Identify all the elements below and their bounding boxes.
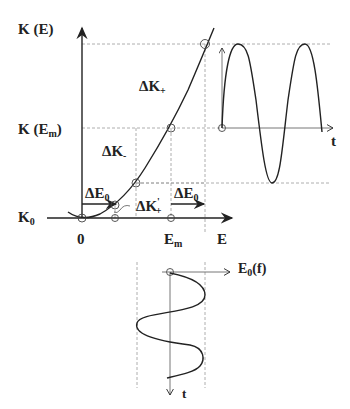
k0-label: K0 [18, 210, 35, 227]
e-axis-label: E [217, 232, 227, 247]
t-bottom-label: t [182, 387, 186, 400]
e0-of-t-wave [137, 273, 205, 378]
t-right-label: t [331, 134, 336, 149]
delta-e0-right-label: ΔE0 [174, 186, 198, 203]
k-of-em-label: K (Em) [18, 122, 62, 139]
delta-k-plus-label: ΔK+ [139, 79, 166, 96]
delta-k-plus-prime-label: ΔK'+ [136, 197, 162, 216]
origin-label: 0 [77, 232, 85, 247]
guide-lines [82, 44, 330, 388]
em-label: Em [164, 232, 182, 249]
diagram-graphics [0, 0, 350, 409]
delta-e0-left-label: ΔE0 [85, 186, 109, 203]
delta-k-minus-label: ΔK- [102, 144, 126, 161]
k-of-t-wave [222, 44, 322, 183]
diagram-canvas: K (E) K (Em) K0 0 Em E t t ΔK+ ΔK- ΔK'+ … [0, 0, 350, 409]
k-of-e-label: K (E) [18, 22, 53, 37]
e0f-label: E0(f) [238, 262, 266, 278]
